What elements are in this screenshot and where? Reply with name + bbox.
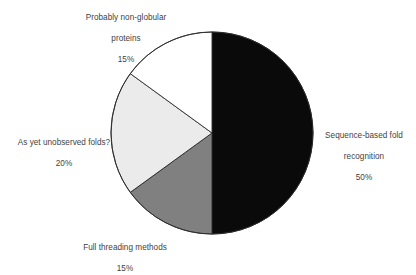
slice-value-sequence-based-fold-recognition: 50% [312,173,416,184]
slice-value-probably-non-globular-proteins: 15% [60,55,192,66]
slice-label-line-2: recognition [312,152,416,163]
slice-value-as-yet-unobserved-folds: 20% [2,159,126,170]
slice-label-sequence-based-fold-recognition: Sequence-based fold recognition 50% [312,120,416,194]
slice-label-line-1: As yet unobserved folds? [2,138,126,149]
pie-slice-1[interactable] [212,32,313,234]
slice-label-full-threading-methods: Full threading methods 15% [52,232,198,275]
slice-label-line-2: proteins [60,34,192,45]
slice-label-probably-non-globular-proteins: Probably non-globular proteins 15% [60,2,192,76]
slice-label-line-1: Probably non-globular [60,13,192,24]
slice-value-full-threading-methods: 15% [52,264,198,275]
slice-label-as-yet-unobserved-folds: As yet unobserved folds? 20% [2,127,126,180]
slice-label-line-1: Sequence-based fold [312,131,416,142]
slice-label-line-1: Full threading methods [52,243,198,254]
